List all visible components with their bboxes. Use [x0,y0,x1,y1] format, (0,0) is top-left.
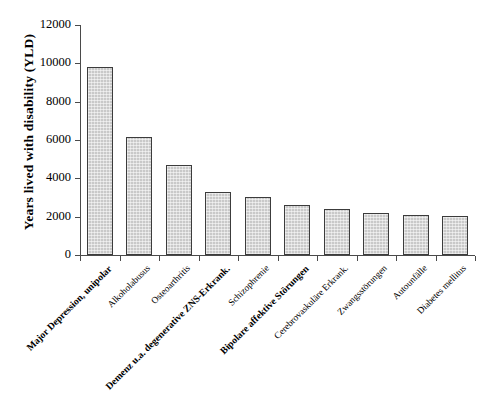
x-axis-category-label-text: Autounfälle [390,263,428,301]
x-axis-tick [238,256,239,261]
bar [442,216,468,255]
y-axis-tick-label: 6000 [46,132,71,147]
bar [324,209,350,255]
x-axis-tick [436,256,437,261]
bar [245,197,271,255]
y-axis-tick: 4000 [75,178,80,179]
y-axis-tick: 8000 [75,102,80,103]
x-axis-tick [120,256,121,261]
bar [205,192,231,255]
x-axis-tick [80,256,81,261]
x-axis-category-label: Autounfälle [390,263,428,301]
x-axis-category-label: Cerebrovaskuläre Erkrank. [272,263,350,341]
x-axis-category-label: Osteoarthritis [149,263,192,306]
y-axis-tick-label: 8000 [46,94,71,109]
x-axis-tick [317,256,318,261]
bar-chart: Years lived with disability (YLD) 120001… [0,0,489,419]
y-axis-tick: 6000 [75,140,80,141]
x-axis-tick [159,256,160,261]
x-axis-category-label-text: Major Depression, unipolar [24,263,114,353]
x-axis-tick [199,256,200,261]
plot-area: 120001000080006000400020000 [80,25,475,255]
bar [126,137,152,255]
bar [166,165,192,255]
x-axis-tick [475,256,476,261]
x-axis-tick [396,256,397,261]
bar [284,205,310,255]
y-axis-tick: 12000 [75,25,80,26]
bar [403,215,429,255]
y-axis-title: Years lived with disability (YLD) [21,7,37,257]
x-axis-tick [357,256,358,261]
y-axis-tick-label: 2000 [46,209,71,224]
bar [87,67,113,255]
y-axis-tick-label: 10000 [40,55,71,70]
y-axis-tick-label: 12000 [40,17,71,32]
y-axis-tick: 10000 [75,63,80,64]
bar [363,213,389,255]
y-axis-tick: 2000 [75,217,80,218]
y-axis-line [80,25,81,256]
y-axis-tick-label: 0 [65,247,71,262]
x-axis-category-label-text: Osteoarthritis [149,263,192,306]
x-axis-category-label-text: Cerebrovaskuläre Erkrank. [272,263,350,341]
x-axis-category-label: Major Depression, unipolar [24,263,114,353]
x-axis-tick [278,256,279,261]
y-axis-tick-label: 4000 [46,170,71,185]
